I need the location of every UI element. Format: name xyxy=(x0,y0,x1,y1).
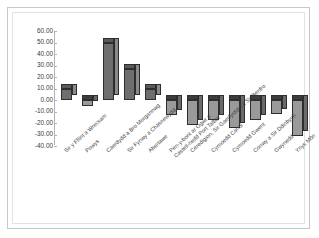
bar xyxy=(145,31,162,146)
bar-series xyxy=(57,31,309,146)
y-axis-tick-mark xyxy=(54,100,57,101)
y-axis-tick-labels: 60.0050.0040.0030.0020.0010.000.00-10.00… xyxy=(13,13,53,149)
y-axis-tick-label: 40.00 xyxy=(13,51,53,57)
bar-side-face xyxy=(219,95,224,115)
chart-container: 60.0050.0040.0030.0020.0010.000.00-10.00… xyxy=(7,7,310,229)
bar-side-face xyxy=(135,64,140,95)
y-axis-tick-mark xyxy=(54,123,57,124)
y-axis-tick-mark xyxy=(54,89,57,90)
bar-side-face xyxy=(198,95,203,120)
y-axis-tick-mark xyxy=(54,135,57,136)
y-axis-tick-label: 20.00 xyxy=(13,74,53,80)
y-axis-tick-mark xyxy=(54,146,57,147)
bar-front-face xyxy=(61,89,73,101)
bar-front-face xyxy=(208,100,220,120)
y-axis-tick-label: -40.00 xyxy=(13,143,53,149)
bar xyxy=(292,31,309,146)
y-axis-tick-mark xyxy=(54,112,57,113)
bar xyxy=(250,31,267,146)
bar-side-face xyxy=(303,95,308,131)
bar-front-face xyxy=(229,100,241,128)
bar-side-face xyxy=(114,38,119,96)
bar xyxy=(61,31,78,146)
y-axis-tick-label: 50.00 xyxy=(13,39,53,45)
bar-side-face xyxy=(93,95,98,101)
bar-front-face xyxy=(292,100,304,136)
y-axis-tick-mark xyxy=(54,43,57,44)
bar xyxy=(187,31,204,146)
bar-front-face xyxy=(271,100,283,114)
bar xyxy=(82,31,99,146)
bar-front-face xyxy=(103,43,115,101)
bar xyxy=(229,31,246,146)
y-axis-tick-label: 60.00 xyxy=(13,28,53,34)
y-axis-tick-mark xyxy=(54,31,57,32)
bar-front-face xyxy=(82,100,94,106)
plot-area-frame: 60.0050.0040.0030.0020.0010.000.00-10.00… xyxy=(12,12,305,224)
bar-front-face xyxy=(250,100,262,120)
bar xyxy=(103,31,120,146)
bar-front-face xyxy=(187,100,199,125)
bar-side-face xyxy=(261,95,266,115)
y-axis-tick-label: 10.00 xyxy=(13,85,53,91)
bar-side-face xyxy=(282,95,287,109)
bar xyxy=(124,31,141,146)
y-axis-tick-label: 30.00 xyxy=(13,62,53,68)
y-axis-tick-label: -30.00 xyxy=(13,131,53,137)
y-axis-tick-label: 0.00 xyxy=(13,97,53,103)
bar-side-face xyxy=(240,95,245,123)
bar xyxy=(166,31,183,146)
y-axis-tick-mark xyxy=(54,77,57,78)
y-axis-tick-mark xyxy=(54,54,57,55)
bar-front-face xyxy=(145,89,157,101)
bar-side-face xyxy=(156,84,161,96)
bar-front-face xyxy=(166,100,178,115)
y-axis-tick-mark xyxy=(54,66,57,67)
bar xyxy=(271,31,288,146)
bar xyxy=(208,31,225,146)
y-axis-tick-label: -10.00 xyxy=(13,108,53,114)
y-axis-tick-label: -20.00 xyxy=(13,120,53,126)
bar-side-face xyxy=(177,95,182,110)
bar-front-face xyxy=(124,69,136,100)
bar-side-face xyxy=(72,84,77,96)
